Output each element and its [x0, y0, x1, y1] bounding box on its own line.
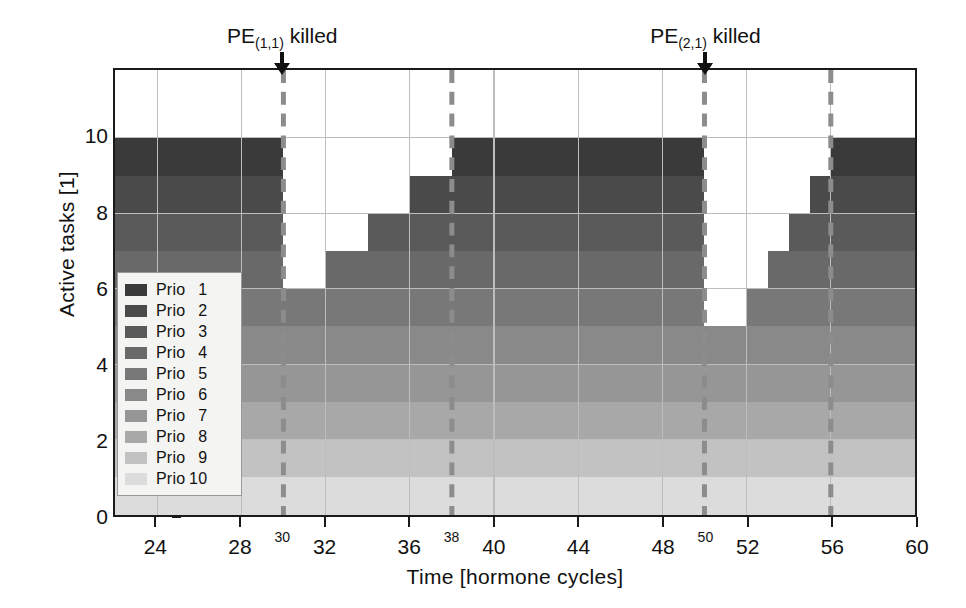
legend-label-7: Prio7	[156, 407, 207, 425]
legend-item-prio-1: Prio1	[125, 279, 233, 300]
legend-label-10: Prio10	[156, 470, 207, 488]
y-tick-label-8: 8	[74, 201, 108, 225]
x-tick-label-32: 32	[313, 535, 336, 559]
x-tick-label-52: 52	[736, 535, 759, 559]
x-tick-mark-48	[662, 517, 664, 527]
x-tick-label-60: 60	[905, 535, 928, 559]
event-label-main: PE	[650, 24, 678, 47]
legend-label-5: Prio5	[156, 365, 207, 383]
event-label-tail: killed	[707, 24, 761, 47]
legend-item-prio-5: Prio5	[125, 363, 233, 384]
x-tick-mark-36	[408, 517, 410, 527]
x-tick-mark-24	[154, 517, 156, 527]
legend-label-8: Prio8	[156, 428, 207, 446]
x-tick-label-minor-50: 50	[698, 529, 714, 545]
x-tick-label-minor-38: 38	[444, 529, 460, 545]
x-tick-label-36: 36	[398, 535, 421, 559]
y-tick-label-6: 6	[74, 277, 108, 301]
legend-swatch-icon-3	[125, 326, 147, 338]
event-label-main: PE	[227, 24, 255, 47]
event-label-1: PE(1,1) killed	[227, 24, 338, 51]
legend-swatch-icon-8	[125, 431, 147, 443]
legend-swatch-icon-5	[125, 368, 147, 380]
legend-swatch-icon-6	[125, 389, 147, 401]
x-tick-label-56: 56	[821, 535, 844, 559]
legend-swatch-icon-9	[125, 452, 147, 464]
legend-item-prio-6: Prio6	[125, 384, 233, 405]
legend-item-prio-2: Prio2	[125, 300, 233, 321]
x-tick-label-48: 48	[651, 535, 674, 559]
legend-label-1: Prio1	[156, 281, 207, 299]
x-axis-ticks: 24283236404448525660303850	[113, 517, 917, 563]
legend-item-prio-10: Prio10	[125, 468, 233, 489]
chart-canvas: Active tasks [1] 0246810 242832364044485…	[0, 0, 966, 608]
legend-label-9: Prio9	[156, 449, 207, 467]
y-tick-label-10: 10	[74, 124, 108, 148]
legend-item-prio-9: Prio9	[125, 447, 233, 468]
x-tick-label-28: 28	[228, 535, 251, 559]
x-tick-mark-40	[493, 517, 495, 527]
legend-item-prio-8: Prio8	[125, 426, 233, 447]
y-axis-ticks: 0246810	[64, 68, 108, 517]
x-tick-mark-52	[747, 517, 749, 527]
event-label-sub: (1,1)	[255, 35, 284, 51]
legend-swatch-icon-2	[125, 305, 147, 317]
event-label-tail: killed	[284, 24, 338, 47]
x-tick-mark-44	[577, 517, 579, 527]
legend-label-4: Prio4	[156, 344, 207, 362]
legend-swatch-icon-1	[125, 284, 147, 296]
y-tick-label-4: 4	[74, 353, 108, 377]
x-tick-mark-32	[324, 517, 326, 527]
legend-swatch-icon-10	[125, 473, 147, 485]
x-tick-label-24: 24	[144, 535, 167, 559]
legend-label-6: Prio6	[156, 386, 207, 404]
legend-label-2: Prio2	[156, 302, 207, 320]
event-label-2: PE(2,1) killed	[650, 24, 761, 51]
x-tick-mark-60	[916, 517, 918, 527]
x-tick-mark-56	[831, 517, 833, 527]
x-axis-title: Time [hormone cycles]	[113, 565, 917, 589]
legend-label-3: Prio3	[156, 323, 207, 341]
legend-swatch-icon-7	[125, 410, 147, 422]
x-tick-label-minor-30: 30	[274, 529, 290, 545]
legend-item-prio-7: Prio7	[125, 405, 233, 426]
y-tick-label-2: 2	[74, 429, 108, 453]
x-tick-mark-28	[239, 517, 241, 527]
legend-swatch-icon-4	[125, 347, 147, 359]
x-tick-label-44: 44	[567, 535, 590, 559]
event-label-sub: (2,1)	[678, 35, 707, 51]
legend-item-prio-3: Prio3	[125, 321, 233, 342]
legend: Prio1Prio2Prio3Prio4Prio5Prio6Prio7Prio8…	[117, 272, 242, 496]
legend-item-prio-4: Prio4	[125, 342, 233, 363]
y-tick-label-0: 0	[74, 505, 108, 529]
x-tick-label-40: 40	[482, 535, 505, 559]
